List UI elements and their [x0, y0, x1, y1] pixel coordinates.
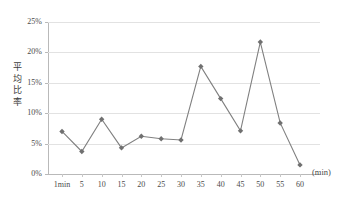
data-point-marker[interactable] [139, 134, 144, 139]
data-point-marker[interactable] [238, 128, 243, 133]
data-point-marker[interactable] [198, 64, 203, 69]
data-point-marker[interactable] [158, 136, 163, 141]
data-point-marker[interactable] [178, 137, 183, 142]
x-axis-unit-label: (min) [312, 167, 331, 177]
data-point-marker[interactable] [258, 39, 263, 44]
chart-container: 平 均 比 率 0%5%10%15%20%25% 1min51015202530… [0, 0, 352, 207]
data-point-marker[interactable] [277, 120, 282, 125]
data-point-marker[interactable] [297, 162, 302, 167]
data-series-line [0, 0, 352, 207]
data-point-marker[interactable] [218, 96, 223, 101]
series-polyline [62, 42, 300, 165]
